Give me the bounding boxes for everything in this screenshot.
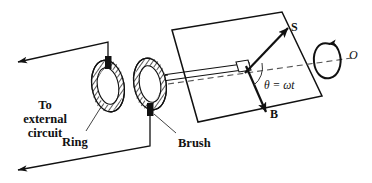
brush-contact-right <box>147 103 154 116</box>
brush-label: Brush <box>178 136 211 150</box>
angle-label: θ = ωt <box>264 79 294 92</box>
rotation-axis-label: O <box>349 49 358 62</box>
brush-contact-left <box>105 56 112 69</box>
curved-rotation-arrow <box>314 43 341 78</box>
angle-arc <box>254 63 262 85</box>
leader-line-ring <box>86 107 101 131</box>
diagram-canvas <box>0 0 372 183</box>
ring-label: Ring <box>62 135 88 149</box>
leader-line-brush <box>154 114 176 133</box>
flux-vector-arrow <box>245 28 288 73</box>
ac-generator-figure: To external circuit Ring Brush S B θ = ω… <box>0 0 372 183</box>
field-vector-label: B <box>270 108 278 121</box>
flux-vector-label: S <box>291 21 298 34</box>
lead-wire-top <box>18 42 108 62</box>
field-vector-arrow <box>246 66 266 112</box>
external-circuit-label: To external circuit <box>6 98 84 140</box>
